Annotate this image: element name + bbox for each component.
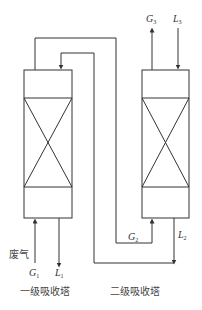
g3-label: G3 — [146, 13, 156, 25]
g2-label: G2 — [128, 231, 138, 243]
g1-label: G1 — [29, 267, 39, 279]
l1-label: L1 — [54, 267, 64, 279]
l3-label: L3 — [172, 13, 182, 25]
waste-gas-label: 废气 — [9, 248, 29, 260]
column-2 — [142, 70, 189, 218]
two-stage-absorption-diagram: G3 L3 G2 L2 G1 L1 废气 一级吸收塔 二级吸收塔 — [0, 0, 202, 310]
l2-label: L2 — [177, 229, 187, 241]
column-1-label: 一级吸收塔 — [20, 285, 70, 297]
column-1 — [24, 70, 72, 218]
column-2-label: 二级吸收塔 — [110, 285, 160, 297]
